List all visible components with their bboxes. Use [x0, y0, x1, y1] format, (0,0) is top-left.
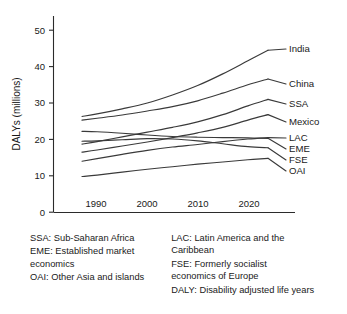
- x-tick-label-2000: 2000: [136, 198, 157, 209]
- x-tick-label-2020: 2020: [238, 198, 259, 209]
- series-line-lac: [82, 138, 268, 162]
- y-tick-label-40: 40: [34, 61, 45, 72]
- y-tick-label-30: 30: [34, 97, 45, 108]
- line-chart: 50 40 30 20 10 0 DALYs (millions) 1990 2…: [0, 0, 347, 232]
- y-tick-label-10: 10: [34, 170, 45, 181]
- series-paths: [82, 50, 268, 176]
- y-tick-label-0: 0: [40, 207, 45, 218]
- series-end-labels: IndiaChinaSSAMexicoLACEMEFSEOAI: [289, 43, 319, 176]
- legend-abbreviations: SSA: Sub-Saharan Africa EME: Established…: [0, 232, 347, 314]
- leader-line-fse: [268, 148, 286, 160]
- series-label-fse: FSE: [289, 154, 308, 165]
- x-axis-tick-labels: 1990 2000 2010 2020: [85, 198, 259, 209]
- legend-column-right: LAC: Latin America and the Caribbean FSE…: [171, 232, 339, 314]
- legend-item-eme: EME: Established market economics: [30, 245, 171, 270]
- leader-line-china: [268, 79, 286, 84]
- series-label-lac: LAC: [289, 132, 308, 143]
- legend-item-ssa: SSA: Sub-Saharan Africa: [30, 232, 171, 244]
- figure-container: 50 40 30 20 10 0 DALYs (millions) 1990 2…: [0, 0, 347, 314]
- legend-item-fse: FSE: Formerly socialist economics of Eur…: [171, 258, 339, 283]
- y-axis-ticks: [49, 30, 54, 212]
- x-tick-label-2010: 2010: [187, 198, 208, 209]
- legend-item-lac: LAC: Latin America and the Caribbean: [171, 232, 339, 257]
- leader-line-ssa: [268, 99, 286, 104]
- y-axis-tick-labels: 50 40 30 20 10 0: [34, 25, 45, 218]
- legend-column-left: SSA: Sub-Saharan Africa EME: Established…: [30, 232, 171, 314]
- leader-line-oai: [268, 158, 286, 171]
- y-tick-label-20: 20: [34, 134, 45, 145]
- series-label-india: India: [289, 43, 310, 54]
- series-label-china: China: [289, 78, 315, 89]
- legend-item-daly: DALY: Disability adjusted life years: [171, 284, 339, 296]
- series-label-oai: OAI: [289, 165, 306, 176]
- y-tick-label-50: 50: [34, 25, 45, 36]
- y-axis-title: DALYs (millions): [11, 77, 22, 150]
- x-tick-label-1990: 1990: [85, 198, 106, 209]
- series-line-china: [82, 79, 268, 120]
- series-label-mexico: Mexico: [289, 116, 319, 127]
- series-label-ssa: SSA: [289, 98, 309, 109]
- leader-line-india: [268, 49, 286, 50]
- series-label-eme: EME: [289, 143, 310, 154]
- leader-line-eme: [268, 138, 286, 149]
- series-line-oai: [82, 158, 268, 176]
- legend-item-oai: OAI: Other Asia and islands: [30, 271, 171, 283]
- series-leader-lines: [268, 49, 286, 171]
- leader-line-mexico: [268, 115, 286, 122]
